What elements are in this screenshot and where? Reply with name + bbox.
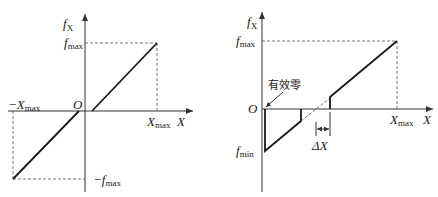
right-linear-segment: [330, 41, 397, 109]
left-graph: fX fmax O −Xmax Xmax X −fmax: [8, 14, 193, 192]
left-y-axis-label: fX: [63, 16, 74, 33]
effective-zero-label: 有效零: [268, 78, 301, 92]
left-fmax-label: fmax: [64, 35, 84, 51]
diagram-canvas: fX fmax O −Xmax Xmax X −fmax fX: [0, 0, 438, 197]
left-x-axis-label: X: [176, 114, 186, 129]
left-neg-fmax-label: −fmax: [93, 172, 121, 188]
right-xmax-label: Xmax: [389, 112, 414, 128]
left-negative-branch: [13, 111, 79, 179]
right-x-axis-label: X: [422, 112, 432, 127]
right-fmin-label: fmin: [236, 143, 254, 159]
left-origin-label: O: [73, 97, 83, 112]
right-graph: fX fmax 有效零 O fmin ΔX Xmax X: [236, 12, 433, 192]
right-fmax-label: fmax: [236, 33, 256, 49]
delta-x-label: ΔX: [311, 138, 329, 153]
left-xmax-label: Xmax: [146, 114, 171, 130]
left-neg-xmax-label: −Xmax: [8, 97, 41, 113]
left-positive-branch: [92, 43, 157, 111]
effective-zero-pointer: [266, 92, 283, 107]
right-y-axis-label: fX: [247, 14, 258, 31]
right-sawtooth-segment: [265, 109, 301, 151]
right-origin-label: O: [248, 101, 258, 116]
